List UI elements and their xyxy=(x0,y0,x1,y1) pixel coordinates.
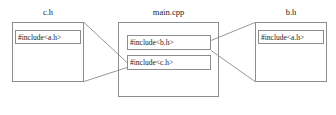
include-box-main-c-h[interactable]: #include<c.h> xyxy=(127,55,211,70)
diagram-canvas: c.h #include<a.h> main.cpp #include<b.h>… xyxy=(0,0,336,115)
include-label: #include<b.h> xyxy=(128,38,174,47)
file-title-c-h: c.h xyxy=(12,7,84,17)
include-label: #include<c.h> xyxy=(128,58,173,67)
include-box-b-h-a-h[interactable]: #include<a.h> xyxy=(258,30,324,44)
file-title-main-cpp: main.cpp xyxy=(118,7,219,17)
include-label: #include<a.h> xyxy=(16,33,61,42)
file-title-b-h: b.h xyxy=(255,7,327,17)
include-box-main-b-h[interactable]: #include<b.h> xyxy=(127,35,211,50)
include-box-c-h-a-h[interactable]: #include<a.h> xyxy=(15,30,81,44)
include-label: #include<a.h> xyxy=(259,33,304,42)
